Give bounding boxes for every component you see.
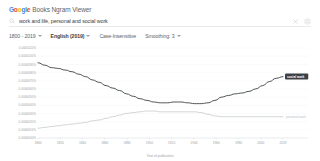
search-bar[interactable]: work and life, personal and social work (9, 16, 311, 27)
grid-lines (38, 48, 308, 138)
x-tick-label: 1940 (190, 141, 197, 145)
filter-row: 1800 - 2019 English (2019) Case-Insensit… (9, 31, 311, 40)
filter-corpus-label: English (2019) (51, 33, 85, 39)
search-icon (9, 18, 15, 24)
chevron-down-icon (177, 35, 181, 37)
x-tick-label: 1840 (79, 141, 86, 145)
ngram-chart[interactable]: 0.0000110%0.0000100%0.0000090%0.0000080%… (0, 43, 320, 161)
y-tick-label: 0.0000110% (19, 46, 36, 50)
series-labels: social workpersonal work (285, 73, 308, 118)
y-tick-label: 0.0000100% (19, 54, 37, 58)
ngram-viewer-page: Google Books Ngram Viewer work and life,… (0, 0, 320, 161)
filter-smoothing-label: Smoothing: 3 (145, 33, 174, 39)
x-tick-label: 2000 (257, 141, 264, 145)
filter-date-range[interactable]: 1800 - 2019 (9, 33, 42, 39)
chevron-down-icon (86, 35, 90, 37)
search-input[interactable]: work and life, personal and social work (19, 18, 288, 24)
x-tick-label: 1880 (124, 141, 131, 145)
x-tick-label: 1900 (146, 141, 153, 145)
brand-bar: Google Books Ngram Viewer (0, 0, 320, 13)
y-tick-label: 0.0000020% (19, 120, 37, 124)
filter-date-range-label: 1800 - 2019 (9, 33, 36, 39)
filter-case-insensitive[interactable]: Case-Insensitive (99, 33, 136, 39)
y-axis-ticks: 0.0000110%0.0000100%0.0000090%0.0000080%… (19, 46, 37, 140)
x-tick-label: 1860 (101, 141, 108, 145)
google-logo[interactable]: Google (9, 6, 30, 13)
filter-case-insensitive-label: Case-Insensitive (99, 33, 136, 39)
search-actions (292, 18, 311, 25)
chart-svg[interactable]: 0.0000110%0.0000100%0.0000090%0.0000080%… (0, 43, 320, 161)
series-label-text: social work (287, 75, 305, 79)
x-tick-label: 1960 (213, 141, 220, 145)
series-label-text: personal work (286, 115, 306, 119)
y-tick-label: 0.0000000% (19, 136, 37, 140)
filter-smoothing[interactable]: Smoothing: 3 (145, 33, 180, 39)
y-tick-label: 0.0000080% (19, 71, 37, 75)
y-tick-label: 0.0000040% (19, 103, 37, 107)
y-tick-label: 0.0000070% (19, 79, 37, 83)
filter-corpus[interactable]: English (2019) (51, 33, 91, 39)
x-tick-label: 1820 (57, 141, 64, 145)
y-tick-label: 0.0000050% (19, 95, 37, 99)
close-icon[interactable] (292, 18, 299, 25)
x-axis-title: Year of publication (146, 154, 173, 158)
series-line[interactable] (38, 63, 283, 104)
product-title: Books Ngram Viewer (32, 6, 91, 13)
y-tick-label: 0.0000010% (19, 128, 37, 132)
x-tick-label: 1800 (34, 141, 41, 145)
y-tick-label: 0.0000060% (19, 87, 37, 91)
x-tick-label: 1980 (235, 141, 242, 145)
y-tick-label: 0.0000030% (19, 112, 37, 116)
tune-icon[interactable] (304, 18, 311, 25)
chevron-down-icon (38, 35, 42, 37)
x-axis-ticks: 1800182018401860188019001920194019601980… (34, 138, 286, 145)
y-tick-label: 0.0000090% (19, 63, 37, 67)
x-tick-label: 1920 (168, 141, 175, 145)
x-tick-label: 2019 (279, 141, 286, 145)
